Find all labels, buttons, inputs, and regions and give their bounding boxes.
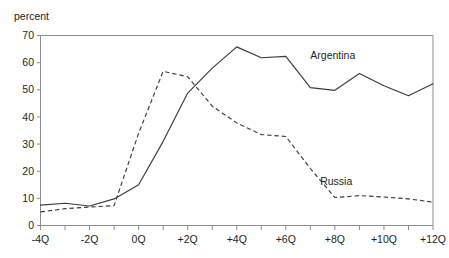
x-tick-label: -4Q bbox=[32, 233, 50, 245]
x-tick-label: +10Q bbox=[371, 233, 397, 245]
x-tick-label: +4Q bbox=[227, 233, 247, 245]
x-tick-label: +12Q bbox=[420, 233, 446, 245]
y-tick-label: 10 bbox=[22, 192, 34, 204]
series-annotations: ArgentinaRussia bbox=[310, 49, 355, 187]
y-tick-label: 70 bbox=[22, 29, 34, 41]
y-tick-label: 0 bbox=[28, 219, 34, 231]
y-tick-label: 20 bbox=[22, 165, 34, 177]
series-label-argentina: Argentina bbox=[310, 49, 355, 61]
y-tick-label: 40 bbox=[22, 111, 34, 123]
x-tick-label: -2Q bbox=[81, 233, 99, 245]
series-line-argentina bbox=[41, 47, 434, 206]
x-tick-label: +2Q bbox=[178, 233, 198, 245]
line-chart-plot: 010203040506070 -4Q-2Q0Q+2Q+4Q+6Q+8Q+10Q… bbox=[0, 0, 449, 258]
data-series-group bbox=[41, 47, 434, 212]
y-tick-label: 50 bbox=[22, 83, 34, 95]
plot-frame bbox=[41, 36, 434, 226]
x-tick-label: 0Q bbox=[132, 233, 146, 245]
x-axis-ticks: -4Q-2Q0Q+2Q+4Q+6Q+8Q+10Q+12Q bbox=[32, 226, 446, 245]
series-line-russia bbox=[41, 71, 434, 212]
x-tick-label: +8Q bbox=[325, 233, 345, 245]
x-tick-label: +6Q bbox=[276, 233, 296, 245]
chart-figure: percent 010203040506070 -4Q-2Q0Q+2Q+4Q+6… bbox=[0, 0, 449, 258]
y-tick-label: 60 bbox=[22, 56, 34, 68]
y-tick-label: 30 bbox=[22, 138, 34, 150]
series-label-russia: Russia bbox=[320, 175, 352, 187]
y-axis-ticks: 010203040506070 bbox=[22, 29, 40, 231]
